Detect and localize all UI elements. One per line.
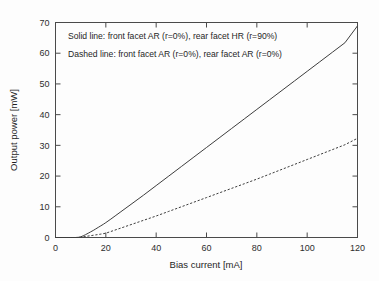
- y-tick-label: 70: [39, 18, 49, 28]
- y-tick-label: 30: [39, 141, 49, 151]
- chart-figure: 010203040506070 020406080100120 Bias cur…: [0, 0, 379, 281]
- x-tick-label: 100: [300, 243, 315, 253]
- x-tick-label: 120: [350, 243, 365, 253]
- y-tick-label: 50: [39, 79, 49, 89]
- x-tick-label: 40: [151, 243, 161, 253]
- y-tick-label: 60: [39, 48, 49, 58]
- x-tick-label: 20: [101, 243, 111, 253]
- y-tick-label: 40: [39, 110, 49, 120]
- x-axis-title: Bias current [mA]: [170, 259, 243, 270]
- chart-canvas: 010203040506070 020406080100120 Bias cur…: [0, 0, 379, 281]
- y-axis-title: Output power [mW]: [8, 89, 19, 171]
- y-tick-label: 20: [39, 171, 49, 181]
- series-line-dashed: [56, 138, 358, 237]
- y-tick-label: 10: [39, 202, 49, 212]
- y-tick-label: 0: [44, 233, 49, 243]
- x-tick-label: 0: [53, 243, 58, 253]
- legend-entry-dashed: Dashed line: front facet AR (r=0%), rear…: [68, 49, 282, 59]
- x-tick-label: 80: [252, 243, 262, 253]
- x-tick-label: 60: [201, 243, 211, 253]
- legend-entry-solid: Solid line: front facet AR (r=0%), rear …: [68, 31, 277, 41]
